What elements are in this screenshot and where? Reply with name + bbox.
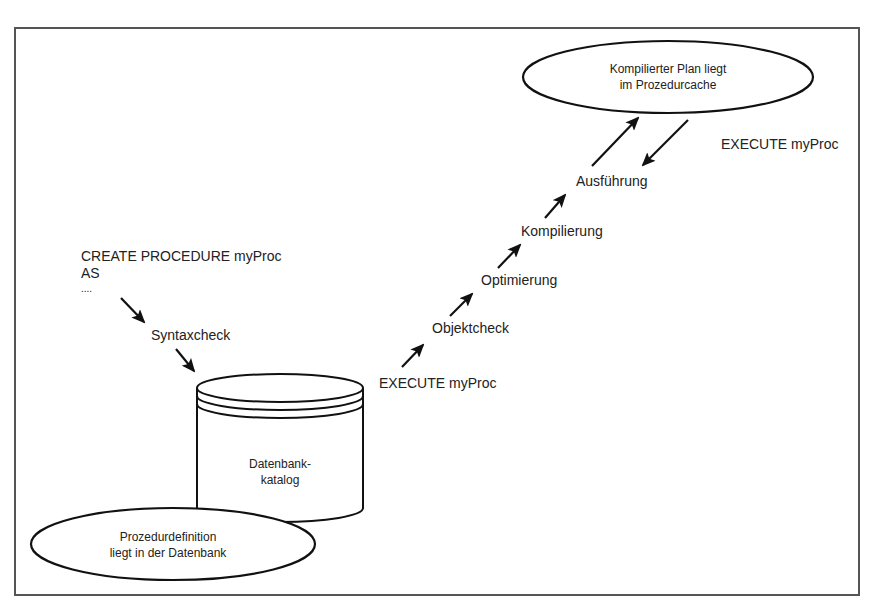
plan-cache-label: Kompilierter Plan liegt im Prozedurcache [610,61,727,93]
arrow-cache-to-ausfuehrung [643,120,688,165]
arrow-objektcheck-to-optimierung [450,294,472,316]
code-line1: CREATE PROCEDURE myProc [81,248,281,265]
catalog-cylinder [197,374,363,522]
step-kompilierung: Kompilierung [521,223,603,240]
arrow-execute-to-objektcheck [402,345,423,367]
diagram-canvas [0,0,879,610]
proc-def-line1: Prozedurdefinition [110,529,227,545]
step-syntaxcheck: Syntaxcheck [151,327,230,344]
proc-def-label: Prozedurdefinition liegt in der Datenban… [110,529,227,561]
step-execute-right: EXECUTE myProc [721,136,838,153]
create-procedure-code: CREATE PROCEDURE myProc AS .... [81,248,281,296]
plan-cache-line2: im Prozedurcache [610,77,727,93]
step-objektcheck: Objektcheck [432,320,509,337]
arrow-ausfuehrung-to-cache [592,118,638,166]
arrow-optimierung-to-kompilierung [498,245,520,268]
step-optimierung: Optimierung [481,272,557,289]
catalog-label: Datenbank- katalog [249,456,311,488]
catalog-line2: katalog [249,472,311,488]
catalog-line1: Datenbank- [249,456,311,472]
arrow-kompilierung-to-ausfuehrung [545,195,565,218]
plan-cache-line1: Kompilierter Plan liegt [610,61,727,77]
step-ausfuehrung: Ausführung [576,173,648,190]
arrow-create-to-syntax [121,298,144,322]
code-line2: AS [81,265,281,282]
step-execute-left: EXECUTE myProc [379,375,496,392]
code-line3: .... [81,282,281,296]
proc-def-line2: liegt in der Datenbank [110,545,227,561]
arrow-syntax-to-catalog [176,349,194,371]
